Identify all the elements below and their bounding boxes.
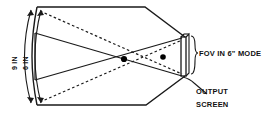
solid-ray-upper (35, 33, 182, 76)
dimension-arc-9in-arrow-bottom (27, 97, 34, 103)
optics-diagram-svg: 9 IN 6 IN FOV IN 6" MODE (0, 0, 269, 116)
housing-top-edge (37, 7, 185, 37)
optics-diagram: 9 IN 6 IN FOV IN 6" MODE (0, 0, 269, 116)
dimension-label-6in: 6 IN (22, 56, 29, 70)
output-screen-label-line2: SCREEN (196, 100, 228, 109)
output-screen (181, 34, 189, 76)
dimension-arc-6in (35, 10, 44, 103)
solid-ray-lower (35, 38, 182, 80)
output-screen-leader-curve (183, 77, 194, 83)
solid-ray-bundle (35, 33, 182, 80)
housing-bottom-edge (37, 76, 185, 105)
fov-callout-label: FOV IN 6" MODE (199, 49, 261, 58)
dashed-ray-lower (40, 40, 182, 102)
fov-bracket (191, 36, 198, 74)
output-screen-face (181, 37, 186, 76)
dashed-crossing-point-dot (160, 54, 166, 60)
fov-bracket-brace (191, 36, 198, 74)
dashed-ray-upper (40, 11, 182, 74)
dimension-label-9in: 9 IN (11, 56, 18, 70)
dimension-arc-9in-arrow-top (27, 10, 34, 16)
output-screen-label-line1: OUTPUT (196, 87, 228, 96)
dimension-arc-6in-line (35, 10, 41, 103)
solid-crossing-point-dot (121, 56, 127, 62)
